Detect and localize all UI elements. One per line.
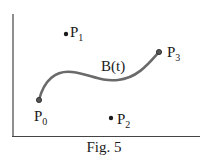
bezier-curve — [39, 52, 159, 100]
point-p2 — [109, 116, 113, 120]
figure-caption: Fig. 5 — [86, 139, 121, 155]
label-p0: P0 — [34, 108, 47, 127]
label-p2: P2 — [117, 111, 130, 130]
point-p1 — [64, 32, 68, 36]
label-p1: P1 — [70, 24, 83, 43]
curve-label: B(t) — [101, 58, 125, 75]
bezier-figure: P1 P3 P0 P2 B(t) Fig. 5 — [0, 0, 200, 163]
point-p3 — [156, 49, 161, 54]
label-p3: P3 — [167, 44, 180, 63]
point-p0 — [36, 97, 41, 102]
